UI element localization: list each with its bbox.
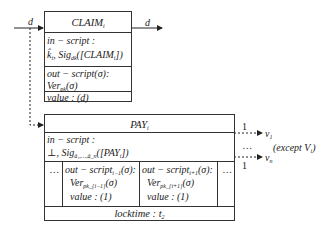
vn-amount: 1 <box>242 160 247 171</box>
divider <box>62 162 63 206</box>
pay-output-next: out − scripti+1(σ): Verpk_{i+1}(σ) value… <box>141 162 217 206</box>
pay-outputs-ellipsis-left: … <box>50 164 59 175</box>
pay-output-prev: out − scripti−1(σ): Verpk_{i−1}(σ) value… <box>64 162 138 206</box>
pay-outputs-ellipsis-right: … <box>223 164 232 175</box>
claim-title: CLAIMi <box>45 17 131 32</box>
claim-in-script-label: in − script : <box>47 35 95 46</box>
pay-output-next-ver: Verpk_{i+1}(σ) <box>147 177 194 192</box>
pay-in-script-section: in − script : ⊥, Sigâ₁,…,â_n([PAYi]) <box>45 132 234 161</box>
dashed-route-arrow <box>30 28 43 125</box>
pay-locktime-section: locktime : t2 <box>45 206 234 220</box>
pay-outputs-section: … out − scripti−1(σ): Verpk_{i−1}(σ) val… <box>45 161 234 206</box>
claim-input-label: d <box>28 16 33 27</box>
claim-out-script-label: out − script(σ): <box>47 68 109 79</box>
pay-output-prev-ver: Verpk_{i−1}(σ) <box>70 177 117 192</box>
claim-value-section: value : (d) <box>45 91 131 102</box>
claim-in-script-value: k̂i, Sigdk([CLAIMi]) <box>47 49 123 64</box>
divider <box>139 162 140 206</box>
vn-label: vn <box>265 152 272 167</box>
pay-in-script-value: ⊥, Sigâ₁,…,â_n([PAYi]) <box>47 147 129 162</box>
outputs-ellipsis: … <box>243 140 252 151</box>
claim-in-script-section: in − script : k̂i, Sigdk([CLAIMi]) <box>45 32 131 66</box>
claim-out-script-section: out − script(σ): Verpk(σ) <box>45 66 131 91</box>
pay-output-next-value: value : (1) <box>147 191 189 202</box>
v1-amount: 1 <box>242 121 247 132</box>
except-note: (except Vi) <box>273 142 316 157</box>
divider <box>217 162 218 206</box>
pay-box: PAYi in − script : ⊥, Sigâ₁,…,â_n([PAYi]… <box>44 114 235 221</box>
pay-output-prev-value: value : (1) <box>70 191 112 202</box>
claim-box: CLAIMi in − script : k̂i, Sigdk([CLAIMi]… <box>44 11 132 102</box>
claim-output-label: d <box>145 17 150 28</box>
pay-locktime: locktime : t2 <box>45 208 234 223</box>
pay-in-script-label: in − script : <box>47 134 95 145</box>
v1-label: v1 <box>265 128 272 143</box>
claim-value: value : (d) <box>47 92 89 103</box>
